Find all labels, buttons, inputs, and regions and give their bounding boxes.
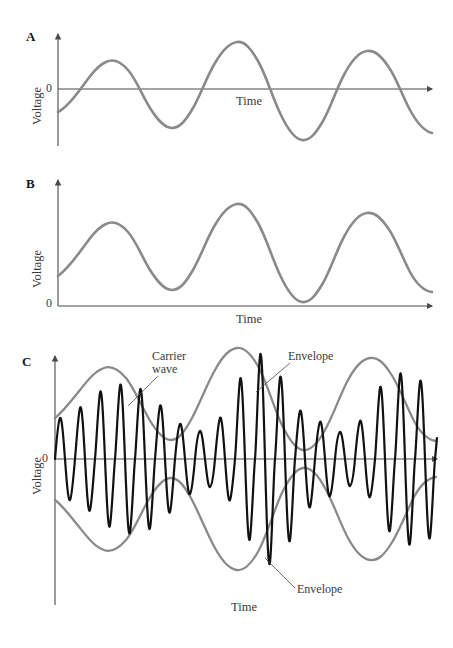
- panel-a: A Voltage 0 Time: [0, 0, 453, 170]
- panel-b-waveform: [58, 204, 432, 302]
- panel-b-plot: [0, 160, 453, 340]
- envelope-bottom-leader-line: [265, 558, 295, 588]
- panel-b: B Voltage 0 Time: [0, 160, 453, 340]
- panel-c: C Voltage 0 Time Carrier wave Envelope E…: [0, 330, 453, 648]
- panel-a-waveform: [58, 42, 432, 140]
- panel-a-plot: [0, 0, 453, 170]
- panel-c-plot: [0, 330, 453, 648]
